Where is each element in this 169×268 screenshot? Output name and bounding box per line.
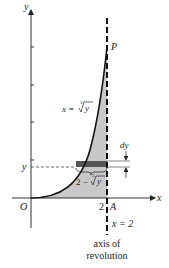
svg-text:y: y [84,103,89,113]
y-axis-label: y [23,1,29,12]
svg-text:3: 3 [80,100,83,105]
svg-text:x =: x = [61,104,74,114]
x-tick-label: 2 [99,201,104,212]
curve-label: x = 3 y [61,100,93,114]
svg-text:2 −: 2 − [76,177,88,187]
y-level-label: y [21,161,27,172]
dy-label: dy [120,140,129,150]
axis-caption-line2: revolution [86,250,127,261]
origin-label: O [20,201,27,212]
point-p-label: P [110,41,117,52]
point-a-label: A [109,201,117,212]
svg-text:y: y [96,176,101,186]
axis-equation-label: x = 2 [111,218,133,229]
horizontal-strip [76,161,107,167]
x-axis-label: x [156,192,162,203]
axis-caption-line1: axis of [94,238,122,249]
diagram: y x O y P 2 A dy x = 3 y 2 − 3 y x = 2 a… [0,0,169,268]
